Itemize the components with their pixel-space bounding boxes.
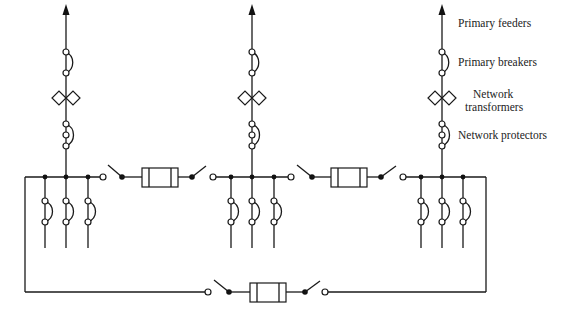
branch-breaker [63, 175, 74, 248]
switch-blade [192, 166, 206, 177]
label-primary-feeders: Primary feeders [458, 17, 532, 30]
branch-breaker [418, 175, 429, 248]
feeder-left [52, 4, 80, 177]
tie-breaker-box [331, 168, 367, 187]
outer-loop [25, 177, 486, 292]
tie-breaker-box [142, 168, 178, 187]
network-left [25, 4, 106, 248]
tie-left-middle [108, 165, 206, 187]
network-middle [210, 4, 294, 248]
switch-blade [305, 281, 320, 292]
tie-breaker-box [250, 283, 286, 302]
label-network-protectors: Network protectors [458, 129, 548, 142]
tie-bottom [205, 280, 328, 302]
feeder-right [428, 4, 456, 177]
branch-breaker [85, 175, 96, 248]
label-primary-breakers: Primary breakers [458, 56, 537, 69]
switch-blade [297, 165, 312, 177]
feeder-middle [238, 4, 266, 177]
branch-breaker [439, 175, 450, 248]
branch-breaker [249, 175, 260, 248]
label-network-transformers-1: Network [473, 88, 513, 100]
network-right [400, 4, 486, 248]
network-diagram: Primary feeders Primary breakers Network… [0, 0, 572, 315]
tie-middle-right [297, 165, 396, 187]
branch-breaker [460, 175, 471, 248]
label-network-transformers-2: transformers [465, 101, 524, 113]
switch-blade [381, 166, 396, 177]
branch-breaker [271, 175, 282, 248]
switch-blade [214, 280, 229, 292]
branch-breaker [228, 175, 239, 248]
branch-breaker [42, 175, 53, 248]
